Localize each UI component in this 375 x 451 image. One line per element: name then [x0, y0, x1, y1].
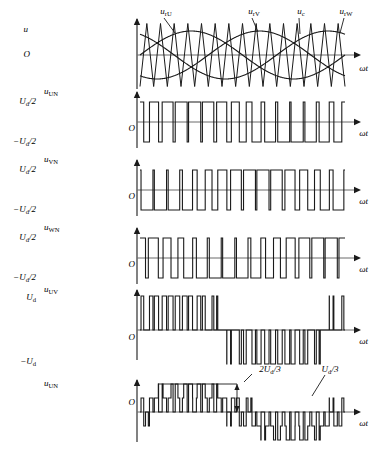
panel1-y-label: u [24, 24, 29, 34]
leader-line-two-thirds-ud [244, 374, 252, 382]
panel1-origin: O [24, 49, 31, 59]
dimension-arrow-top [234, 384, 239, 390]
origin-u-UV: O [129, 332, 136, 342]
panel-axes [134, 227, 361, 284]
x-axis-arrow [354, 327, 361, 333]
annotation-u-c: uc [297, 6, 305, 16]
annotation-one-third-ud: Ud/3 [322, 364, 339, 374]
origin-u-UN-load: O [129, 397, 136, 407]
y-axis-arrow [134, 159, 140, 166]
leader-line-one-third-ud [312, 375, 325, 396]
spwm-waveform-figure: uOωturUurVucurWuUNUd/2−Ud/2OωtuVNUd/2−Ud… [0, 0, 375, 451]
x-axis-arrow [354, 255, 361, 261]
y-axis-arrow [134, 289, 140, 296]
x-label-u-UV: ωt [359, 336, 368, 346]
x-label-u-UN-load: ωt [359, 418, 368, 428]
y-label-u-UN-load: uUN [44, 378, 58, 388]
y-label-u-WN: uWN [44, 222, 60, 232]
level-pos-u-UV: Ud [26, 292, 37, 302]
y-axis-arrow [134, 379, 140, 386]
level-neg-u-UN: −Ud/2 [13, 136, 36, 146]
level-neg-u-WN: −Ud/2 [13, 272, 36, 282]
y-axis-arrow [134, 91, 140, 98]
x-label-u-UN: ωt [359, 128, 368, 138]
y-axis-arrow [134, 227, 140, 234]
y-label-u-UV: uUV [44, 284, 58, 294]
leader-line-u-rU [164, 18, 175, 33]
level-neg-u-VN: −Ud/2 [13, 204, 36, 214]
annotation-u-rV: urV [248, 6, 260, 16]
annotation-two-thirds-ud: 2Ud/3 [259, 364, 281, 374]
x-axis-arrow [354, 187, 361, 193]
panel-axes [134, 91, 361, 148]
level-pos-u-UN: Ud/2 [19, 96, 36, 106]
y-axis-arrow [134, 18, 140, 25]
waveform-canvas: uOωturUurVucurWuUNUd/2−Ud/2OωtuVNUd/2−Ud… [0, 0, 375, 451]
leader-line-u-rW [340, 18, 344, 33]
level-pos-u-VN: Ud/2 [19, 164, 36, 174]
origin-u-WN: O [129, 259, 136, 269]
origin-u-UN: O [129, 123, 136, 133]
origin-u-VN: O [129, 191, 136, 201]
y-label-u-VN: uVN [44, 154, 58, 164]
annotation-u-rW: urW [340, 6, 354, 16]
y-label-u-UN: uUN [44, 86, 58, 96]
x-label-u-VN: ωt [359, 196, 368, 206]
level-neg-u-UV: −Ud [20, 356, 37, 366]
level-pos-u-WN: Ud/2 [19, 232, 36, 242]
x-label-u-WN: ωt [359, 264, 368, 274]
x-axis-arrow [354, 52, 361, 58]
annotation-u-rU: urU [160, 6, 172, 16]
x-axis-arrow [354, 119, 361, 125]
leader-line-u-c [299, 18, 300, 34]
panel1-x-label: ωt [359, 63, 368, 73]
x-axis-arrow [354, 409, 361, 415]
